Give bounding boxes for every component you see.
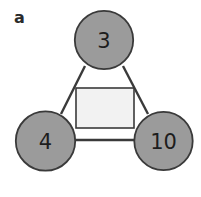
node-triangle-diagram: 3 4 10 [0,0,201,197]
node-bottom-right-label: 10 [150,130,177,154]
center-rectangle [76,88,134,128]
figure-panel: a 3 4 10 [0,0,201,197]
node-bottom-left-label: 4 [39,130,52,154]
node-bottom-right[interactable]: 10 [134,112,192,170]
node-top-label: 3 [97,29,110,53]
node-top[interactable]: 3 [75,11,133,69]
node-bottom-left[interactable]: 4 [16,111,75,170]
